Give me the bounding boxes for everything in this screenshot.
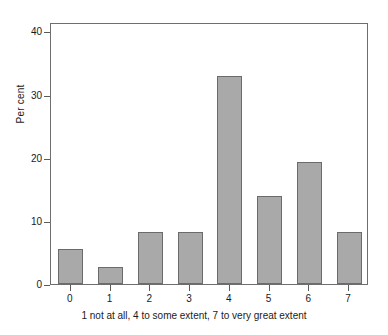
y-axis-tick-label-wrap: 10 (6, 222, 42, 232)
bar (138, 232, 163, 284)
y-axis-tick-label: 0 (8, 280, 42, 290)
y-axis-tick (44, 32, 50, 33)
bar-chart-figure: Per cent 1 not at all, 4 to some extent,… (0, 0, 388, 335)
x-axis-tick-label: 2 (137, 293, 161, 305)
y-axis-tick (44, 159, 50, 160)
x-axis-title: 1 not at all, 4 to some extent, 7 to ver… (0, 310, 388, 322)
plot-area (50, 23, 368, 285)
x-axis-tick (269, 285, 270, 291)
y-axis-tick (44, 96, 50, 97)
y-axis-tick-label: 20 (8, 154, 42, 164)
x-axis-tick (149, 285, 150, 291)
y-axis-tick (44, 222, 50, 223)
bar (98, 267, 123, 284)
bar (178, 232, 203, 284)
x-axis-tick-label: 6 (296, 293, 320, 305)
x-axis-tick-label: 0 (58, 293, 82, 305)
bar (217, 76, 242, 284)
x-axis-tick-label: 3 (177, 293, 201, 305)
x-axis-tick (348, 285, 349, 291)
y-axis-tick-label: 10 (8, 217, 42, 227)
y-axis-tick-label-wrap: 40 (6, 32, 42, 42)
y-axis-tick-label-wrap: 30 (6, 96, 42, 106)
bars-group (51, 24, 367, 284)
x-axis-tick (189, 285, 190, 291)
y-axis-tick-label: 40 (8, 27, 42, 37)
bar (257, 196, 282, 284)
x-axis-tick (110, 285, 111, 291)
bar (297, 162, 322, 284)
y-axis-tick (44, 285, 50, 286)
bar (337, 232, 362, 284)
x-axis-tick (229, 285, 230, 291)
x-axis-tick-label: 1 (98, 293, 122, 305)
x-axis-tick (70, 285, 71, 291)
x-axis-tick (308, 285, 309, 291)
y-axis-tick-label-wrap: 20 (6, 159, 42, 169)
y-axis-tick-label-wrap: 0 (6, 285, 42, 295)
y-axis-tick-label: 30 (8, 91, 42, 101)
x-axis-tick-label: 7 (336, 293, 360, 305)
x-axis-tick-label: 5 (257, 293, 281, 305)
x-axis-tick-label: 4 (217, 293, 241, 305)
bar (58, 249, 83, 284)
